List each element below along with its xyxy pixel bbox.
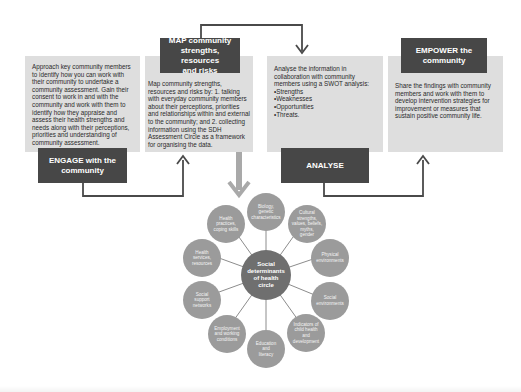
sdh-node-child-health: Indicators of child health and developme… [287,314,325,352]
sdh-node-health-services: Health services, resources [183,239,221,277]
swot-item: Strengths [274,88,376,96]
empower-description: Share the findings with community member… [395,82,496,120]
bottom-fade [0,386,521,392]
map-description: Map community strengths, resources and r… [148,80,250,148]
swot-item: Opportunities [274,103,376,111]
sdh-node-education: Education and literacy [247,330,285,368]
swot-item: Threats. [274,111,376,119]
analyse-description: Analyse the information in collaboration… [274,65,376,88]
sdh-hub-circle: Social determinants of health circle [241,250,291,300]
swot-item: Weaknesses [274,95,376,103]
sdh-node-cultural: Cultural strengths, values, beliefs, myt… [288,205,326,243]
analyse-step-label: ANALYSE [281,148,369,183]
engage-description: Approach key community members to identi… [32,63,133,147]
sdh-node-social-support: Social support networks [183,281,221,319]
sdh-node-employment: Employment and working conditions [208,315,246,353]
empower-step-label: EMPOWER the community [401,38,487,73]
sdh-node-health-practices: Health practices, coping skills [207,205,245,243]
map-step-label: MAP community strengths, resources and r… [160,38,240,73]
swot-list: Strengths Weaknesses Opportunities Threa… [274,88,376,118]
sdh-node-social-environments: Social environments [311,282,349,320]
sdh-node-physical-environments: Physical environments [311,239,349,277]
engage-step-label: ENGAGE with the community [38,148,127,183]
engage-description-box: Approach key community members to identi… [25,56,140,152]
analyse-description-box: Analyse the information in collaboration… [267,56,383,152]
sdh-node-biology: Biology, genetic characteristics [247,193,285,231]
